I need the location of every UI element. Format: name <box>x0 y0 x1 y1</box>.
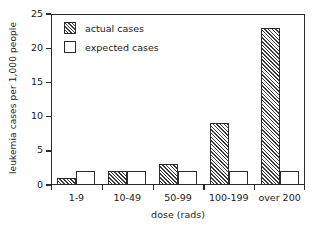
x-axis-title: dose (rads) <box>51 209 305 220</box>
x-tick-mark <box>102 185 103 190</box>
y-tick-label: 20 <box>31 42 43 54</box>
y-tick-label: 15 <box>31 76 43 88</box>
x-tick-label: 1-9 <box>51 192 102 204</box>
x-tick-label: over 200 <box>254 192 305 204</box>
x-tick-label: 100-199 <box>203 192 254 204</box>
bar-expected <box>76 171 95 185</box>
bar-expected <box>178 171 197 185</box>
chart-legend: actual casesexpected cases <box>64 20 159 58</box>
legend-item: expected cases <box>64 39 159 55</box>
x-tick-label: 10-49 <box>102 192 153 204</box>
bar-actual <box>210 123 229 185</box>
bar-expected <box>127 171 146 185</box>
y-tick-label: 25 <box>31 8 43 20</box>
y-tick-label: 0 <box>37 179 43 191</box>
bar-expected <box>229 171 248 185</box>
legend-label: actual cases <box>85 23 144 34</box>
bar-expected <box>280 171 299 185</box>
bar-chart: leukemia cases per 1,000 people 05101520… <box>0 0 317 229</box>
x-tick-mark <box>304 185 305 190</box>
x-tick-label: 50-99 <box>153 192 204 204</box>
legend-label: expected cases <box>85 42 159 53</box>
y-tick-label: 10 <box>31 110 43 122</box>
x-tick-mark <box>153 185 154 190</box>
bar-actual <box>57 178 76 185</box>
bar-actual <box>108 171 127 185</box>
x-tick-mark <box>51 185 52 190</box>
x-tick-mark <box>203 185 204 190</box>
legend-swatch-expected <box>64 41 76 53</box>
legend-item: actual cases <box>64 20 159 36</box>
y-tick-label: 5 <box>37 144 43 156</box>
bar-actual <box>261 28 280 185</box>
y-axis-title: leukemia cases per 1,000 people <box>8 8 18 188</box>
legend-swatch-actual <box>64 22 76 34</box>
bar-actual <box>159 164 178 185</box>
x-tick-mark <box>254 185 255 190</box>
